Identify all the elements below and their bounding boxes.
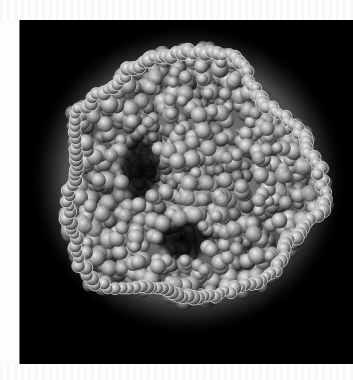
micrograph-panel (19, 20, 353, 364)
scan-bleed-bottom (0, 365, 353, 380)
particle-cluster-image (20, 20, 353, 364)
page (0, 0, 353, 380)
scan-bleed-top (0, 0, 353, 20)
